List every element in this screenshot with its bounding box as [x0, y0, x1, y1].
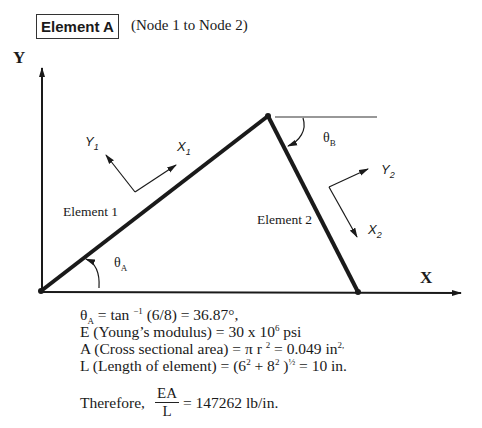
local-y2-label: Y2	[381, 162, 395, 180]
local-x1-axis	[135, 165, 176, 192]
local-x2-label: X2	[368, 222, 382, 240]
node-1	[38, 288, 44, 294]
local-x1-label: X1	[177, 139, 191, 157]
global-x-label: X	[420, 268, 432, 288]
node-3	[355, 289, 361, 295]
local-y1-axis	[106, 155, 135, 192]
global-x-axis	[41, 292, 461, 293]
length-equation: L (Length of element) = (62 + 82 )½ = 10…	[80, 357, 347, 374]
theta-a-arc-arrow	[86, 259, 99, 288]
local-y1-label: Y1	[85, 134, 99, 152]
modulus-equation: E (Young’s modulus) = 30 x 106 psi	[80, 323, 301, 340]
element-1-label: Element 1	[63, 204, 118, 220]
local-x2-axis	[329, 187, 357, 237]
theta-b-label: θB	[323, 130, 336, 148]
theta-b-arc-arrow	[288, 118, 304, 146]
node-2	[265, 113, 271, 119]
local-y2-axis	[329, 169, 368, 187]
element-2-bar	[268, 116, 358, 292]
ea-over-l-fraction: EAL	[155, 385, 179, 420]
area-equation: A (Cross sectional area) = π r 2 = 0.049…	[80, 340, 344, 357]
element-2-label: Element 2	[257, 212, 312, 228]
theta-a-label: θA	[114, 255, 127, 273]
stiffness-result: Therefore,EAL= 147262 lb/in.	[80, 385, 278, 420]
global-y-label: Y	[13, 48, 25, 68]
